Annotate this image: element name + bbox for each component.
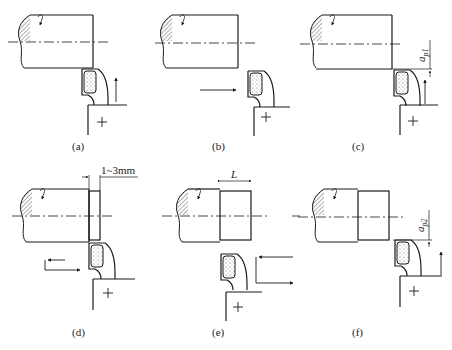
caption-b: (b) — [212, 140, 225, 153]
tool-holder — [88, 105, 127, 135]
feed-arrow-left-then-right — [256, 257, 293, 283]
length-dimension-L: L — [220, 168, 251, 181]
caption-a: (a) — [72, 140, 85, 153]
workpiece — [18, 15, 93, 68]
workpiece — [310, 15, 392, 69]
cutting-tool — [221, 254, 247, 290]
caption-c: (c) — [352, 140, 365, 153]
panel-d: 1~3mm (d) — [12, 164, 138, 339]
cutting-tool — [395, 240, 421, 276]
tool-holder — [226, 292, 262, 321]
trial-cut-dimension: 1~3mm — [82, 164, 138, 191]
panel-e: L (e) — [162, 168, 300, 339]
workpiece — [160, 15, 238, 68]
caption-e: (e) — [212, 326, 225, 339]
feed-arrow-left-then-right — [45, 260, 80, 270]
length-label: L — [230, 168, 237, 180]
panel-b: (b) — [155, 15, 290, 153]
panel-c: ap1 (c) — [300, 15, 438, 153]
workpiece — [176, 189, 251, 242]
turning-process-diagram: (a) (b) — [0, 0, 452, 350]
caption-d: (d) — [72, 326, 85, 339]
workpiece — [312, 189, 389, 242]
ap1-label: ap1 — [415, 49, 430, 63]
tool-holder — [254, 107, 290, 136]
trial-cut-label: 1~3mm — [101, 164, 136, 176]
ap2-label: ap2 — [414, 219, 429, 233]
tool-holder — [93, 279, 135, 310]
cutting-tool — [82, 69, 108, 105]
cutting-tool — [248, 71, 274, 107]
cutting-tool — [89, 243, 115, 279]
cutting-tool — [394, 70, 420, 106]
panel-f: ap2 (f) — [298, 189, 442, 339]
caption-f: (f) — [352, 326, 363, 339]
tool-holder — [400, 276, 442, 307]
tool-holder — [400, 105, 438, 135]
panel-a: (a) — [8, 15, 127, 153]
workpiece — [20, 189, 100, 242]
